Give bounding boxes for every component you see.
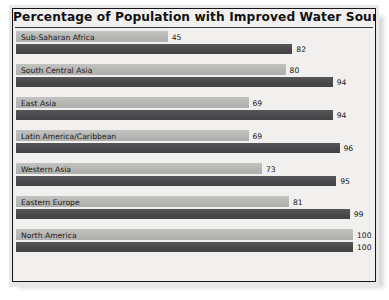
bar-dark (16, 44, 292, 54)
bar-group: Eastern Europe8199 (13, 196, 375, 229)
value-label-light: 100 (353, 230, 372, 239)
chart-page: Percentage of Population with Improved W… (0, 0, 389, 300)
bar-row-dark: 82 (16, 44, 372, 54)
category-label: Eastern Europe (21, 197, 80, 206)
value-label-dark: 100 (353, 243, 372, 252)
value-label-dark: 96 (340, 144, 354, 153)
bar-dark (16, 242, 353, 252)
bar-row-light: Eastern Europe81 (16, 196, 372, 207)
category-label: Western Asia (21, 164, 71, 173)
category-label: South Central Asia (21, 65, 92, 74)
bar-row-dark: 96 (16, 143, 372, 153)
bar-dark (16, 77, 333, 87)
bar-row-light: Sub-Saharan Africa45 (16, 31, 372, 42)
bar-dark (16, 110, 333, 120)
category-label: North America (21, 230, 77, 239)
value-label-dark: 99 (350, 210, 364, 219)
bar-row-dark: 94 (16, 77, 372, 87)
bar-row-dark: 94 (16, 110, 372, 120)
bar-row-light: South Central Asia80 (16, 64, 372, 75)
value-label-light: 73 (262, 164, 276, 173)
bar-group: Latin America/Caribbean6996 (13, 130, 375, 163)
bar-group: Sub-Saharan Africa4582 (13, 31, 375, 64)
value-label-light: 81 (289, 197, 303, 206)
bar-group: South Central Asia8094 (13, 64, 375, 97)
category-label: East Asia (21, 98, 56, 107)
value-label-light: 80 (286, 65, 300, 74)
bar-dark (16, 143, 340, 153)
plot-area: Sub-Saharan Africa4582South Central Asia… (13, 28, 375, 281)
value-label-dark: 82 (292, 45, 306, 54)
bar-row-light: Latin America/Caribbean69 (16, 130, 372, 141)
bar-row-dark: 99 (16, 209, 372, 219)
chart-title: Percentage of Population with Improved W… (13, 10, 375, 24)
value-label-dark: 95 (336, 177, 350, 186)
bar-row-light: Western Asia73 (16, 163, 372, 174)
value-label-light: 45 (168, 32, 182, 41)
value-label-dark: 94 (333, 78, 347, 87)
bar-dark (16, 209, 350, 219)
category-label: Latin America/Caribbean (21, 131, 116, 140)
value-label-light: 69 (249, 131, 263, 140)
bar-group: East Asia6994 (13, 97, 375, 130)
bar-dark (16, 176, 336, 186)
chart-frame: Percentage of Population with Improved W… (12, 8, 376, 282)
value-label-dark: 94 (333, 111, 347, 120)
category-label: Sub-Saharan Africa (21, 32, 95, 41)
bar-row-light: North America100 (16, 229, 372, 240)
bar-row-dark: 95 (16, 176, 372, 186)
bar-row-light: East Asia69 (16, 97, 372, 108)
bar-group: Western Asia7395 (13, 163, 375, 196)
bar-row-dark: 100 (16, 242, 372, 252)
bar-group: North America100100 (13, 229, 375, 262)
value-label-light: 69 (249, 98, 263, 107)
